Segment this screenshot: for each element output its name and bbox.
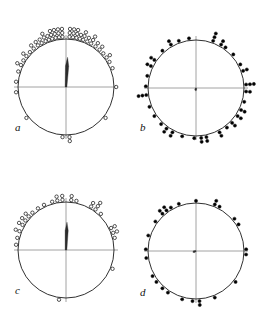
data-point — [42, 203, 45, 206]
data-point — [68, 31, 71, 34]
data-point — [61, 198, 64, 201]
data-point — [72, 28, 75, 31]
panel-d: d — [132, 163, 264, 325]
data-point — [49, 33, 52, 36]
data-point — [75, 199, 78, 202]
data-point — [41, 32, 44, 35]
data-point — [16, 62, 19, 65]
data-point — [24, 212, 27, 215]
data-point — [57, 36, 60, 39]
data-point — [151, 275, 154, 278]
data-point — [60, 27, 63, 30]
data-point — [25, 116, 28, 119]
data-point — [144, 248, 147, 251]
data-point — [145, 256, 148, 259]
data-point — [81, 38, 84, 41]
data-point — [24, 219, 27, 222]
data-point — [20, 216, 23, 219]
data-point — [84, 31, 87, 34]
data-point — [17, 221, 20, 224]
data-point — [108, 53, 111, 56]
data-point — [200, 140, 203, 143]
data-point — [160, 123, 163, 126]
data-point — [169, 134, 172, 137]
data-point — [96, 204, 99, 207]
data-point — [248, 90, 251, 93]
data-point — [46, 34, 49, 37]
data-point — [181, 298, 184, 301]
data-point — [218, 205, 221, 208]
data-point — [191, 299, 194, 302]
data-point — [98, 48, 101, 51]
panel-c-plot — [0, 163, 132, 325]
data-point — [232, 53, 235, 56]
data-point — [99, 201, 102, 204]
data-point — [25, 54, 28, 57]
data-point — [21, 223, 24, 226]
data-point — [248, 83, 251, 86]
data-point — [198, 303, 201, 306]
data-point — [76, 32, 79, 35]
data-point — [237, 223, 240, 226]
panel-b-plot — [132, 0, 264, 163]
data-point — [14, 80, 17, 83]
data-point — [147, 234, 150, 237]
data-point — [169, 43, 172, 46]
data-point — [78, 37, 81, 40]
data-point — [163, 206, 166, 209]
data-point — [244, 90, 247, 93]
data-point — [163, 130, 166, 133]
data-point — [101, 45, 104, 48]
data-point — [68, 27, 71, 30]
data-point — [17, 70, 20, 73]
data-point — [94, 208, 97, 211]
data-point — [68, 139, 71, 142]
data-point — [187, 37, 190, 40]
data-point — [70, 198, 73, 201]
data-point — [53, 32, 56, 35]
data-point — [220, 43, 223, 46]
data-point — [224, 46, 227, 49]
data-point — [141, 94, 144, 97]
data-point — [109, 226, 112, 229]
data-point — [212, 39, 215, 42]
data-point — [79, 33, 82, 36]
data-point — [150, 56, 153, 59]
data-point — [87, 36, 90, 39]
data-point — [16, 236, 19, 239]
circular-statistics-figure: a b c d — [0, 0, 264, 325]
data-point — [236, 114, 239, 117]
data-point — [31, 211, 34, 214]
panel-label-b: b — [140, 122, 146, 133]
data-point — [200, 136, 203, 139]
data-point — [158, 209, 161, 212]
data-point — [194, 199, 197, 202]
data-point — [244, 83, 247, 86]
data-point — [57, 298, 60, 301]
data-point — [161, 287, 164, 290]
data-point — [19, 63, 22, 66]
data-point — [14, 243, 17, 246]
data-point — [71, 36, 74, 39]
data-point — [252, 82, 255, 85]
data-point — [93, 35, 96, 38]
data-point — [91, 201, 94, 204]
data-point — [34, 40, 37, 43]
data-point — [111, 66, 114, 69]
data-point — [166, 291, 169, 294]
data-point — [155, 280, 158, 283]
data-point — [50, 200, 53, 203]
data-point — [193, 137, 196, 140]
data-point — [221, 40, 224, 43]
data-point — [144, 85, 147, 88]
data-point — [146, 74, 149, 77]
data-point — [38, 38, 41, 41]
data-point — [205, 136, 208, 139]
data-point — [242, 69, 245, 72]
data-point — [244, 253, 247, 256]
data-point — [137, 94, 140, 97]
data-point — [36, 207, 39, 210]
data-point — [56, 28, 59, 31]
data-point — [96, 41, 99, 44]
data-point — [154, 220, 157, 223]
